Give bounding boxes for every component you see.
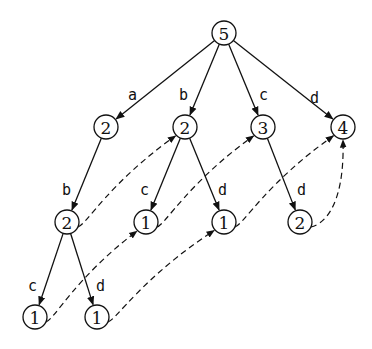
edge-label: c [259,86,268,104]
tree-nodes: 52234211211 [23,21,355,329]
tree-diagram: 52234211211 abcdbcddcd [0,0,372,349]
node-count: 2 [295,213,306,233]
suffix-link-abd-bd [108,230,214,322]
node-b: 2 [173,115,197,139]
node-count: 1 [219,213,230,233]
node-bd: 1 [212,210,236,234]
suffix-link-ab-b [78,136,176,227]
tree-edge-root-b [190,44,219,115]
tree-edge-ab-abd [71,233,93,304]
node-abc: 1 [23,305,47,329]
node-bc: 1 [134,210,158,234]
node-root: 5 [212,21,236,45]
node-count: 2 [180,118,191,138]
edge-label: b [179,86,188,104]
node-cd: 2 [288,210,312,234]
edge-label: a [128,86,137,104]
tree-edge-b-bc [151,138,181,210]
node-count: 1 [141,213,152,233]
node-count: 4 [338,118,349,138]
tree-edge-root-a [116,40,214,118]
node-a: 2 [94,115,118,139]
node-count: 1 [92,308,103,328]
node-ab: 2 [55,210,79,234]
suffix-link-cd-d [311,140,343,227]
edge-label: d [218,181,227,199]
node-count: 2 [62,213,73,233]
edge-labels: abcdbcddcd [28,86,319,295]
node-abd: 1 [85,305,109,329]
node-count: 2 [101,118,112,138]
edge-label: d [310,89,319,107]
tree-edge-c-cd [267,138,295,210]
tree-edges [39,40,333,304]
suffix-link-bc-c [157,136,254,227]
tree-edge-ab-abc [39,233,63,304]
node-d: 4 [331,115,355,139]
edge-label: d [297,181,306,199]
tree-edge-a-ab [72,138,102,210]
tree-edge-b-bd [190,138,220,210]
edge-label: d [96,277,105,295]
tree-edge-root-c [229,44,258,115]
node-count: 1 [30,308,41,328]
tree-edge-root-d [233,40,332,119]
edge-label: b [62,181,71,199]
node-count: 3 [258,118,269,138]
node-c: 3 [251,115,275,139]
edge-label: c [140,181,149,199]
edge-label: c [28,277,37,295]
node-count: 5 [219,24,230,44]
